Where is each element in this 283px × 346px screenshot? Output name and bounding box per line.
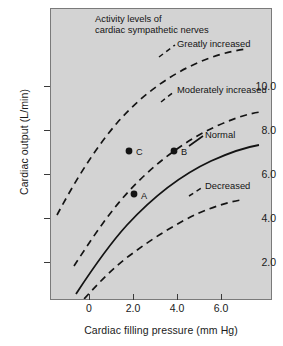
curve-normal xyxy=(76,145,259,294)
y-axis-title: Cardiac output (L/min) xyxy=(18,52,30,232)
xtick-label-2: 2.0 xyxy=(113,303,153,314)
ytick-label-10: 10.0 xyxy=(239,81,283,91)
ytick-mark-10 xyxy=(44,86,50,87)
ytick-label-6: 6.0 xyxy=(239,169,283,179)
leader-normal xyxy=(189,136,203,146)
data-point-c xyxy=(126,148,133,155)
curve-label-greatly-increased: Greatly increased xyxy=(177,38,250,49)
ytick-label-4: 4.0 xyxy=(239,213,283,223)
data-point-a xyxy=(131,191,138,198)
leader-moderately-increased xyxy=(161,91,175,102)
figure-container: Activity levels of cardiac sympathetic n… xyxy=(0,0,283,346)
x-axis-title: Cardiac filling pressure (mm Hg) xyxy=(50,324,272,336)
ytick-label-2: 2.0 xyxy=(239,257,283,267)
xtick-mark-4 xyxy=(177,294,178,300)
point-label-c: C xyxy=(136,148,143,157)
group-title-line-1: Activity levels of xyxy=(95,13,162,24)
data-point-b xyxy=(171,148,178,155)
ytick-mark-8 xyxy=(44,130,50,131)
curve-label-normal: Normal xyxy=(205,129,235,140)
ytick-mark-6 xyxy=(44,174,50,175)
point-label-b: B xyxy=(181,148,187,157)
group-title-line-2: cardiac sympathetic nerves xyxy=(95,24,209,35)
xtick-label-0: 0 xyxy=(69,303,109,314)
leader-decreased xyxy=(189,187,203,196)
xtick-mark-6 xyxy=(221,294,222,300)
ytick-mark-2 xyxy=(44,262,50,263)
xtick-label-4: 4.0 xyxy=(157,303,197,314)
xtick-mark-0 xyxy=(89,294,90,300)
point-label-a: A xyxy=(141,192,147,201)
leader-greatly-increased xyxy=(159,45,175,57)
xtick-label-6: 6.0 xyxy=(201,303,241,314)
curve-label-decreased: Decreased xyxy=(205,180,250,191)
curve-decreased xyxy=(76,200,241,300)
xtick-mark-2 xyxy=(133,294,134,300)
ytick-mark-4 xyxy=(44,218,50,219)
ytick-label-8: 8.0 xyxy=(239,125,283,135)
